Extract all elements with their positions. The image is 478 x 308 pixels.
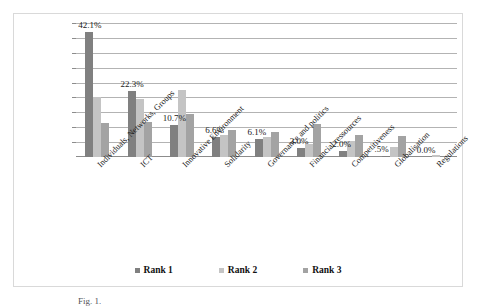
figure-caption: Fig. 1.: [78, 296, 101, 307]
bar-rank-2: [263, 137, 271, 157]
data-label: 6.1%: [248, 127, 267, 137]
data-label: 22.3%: [121, 79, 144, 89]
legend-swatch-icon: [219, 268, 224, 273]
data-label: 10.7%: [163, 113, 186, 123]
legend-item-rank-2[interactable]: Rank 2: [219, 265, 257, 275]
legend-label: Rank 1: [144, 265, 173, 275]
legend-label: Rank 2: [228, 265, 257, 275]
bar-rank-1: [339, 151, 347, 157]
bar-group: [170, 23, 194, 157]
legend-item-rank-1[interactable]: Rank 1: [135, 265, 173, 275]
legend-item-rank-3[interactable]: Rank 3: [303, 265, 341, 275]
bar-rank-1: [255, 139, 263, 157]
bar-group: [255, 23, 279, 157]
category-labels: Individuals, Networks, GroupsICTInnovati…: [76, 162, 457, 258]
chart-legend: Rank 1Rank 2Rank 3: [14, 265, 462, 275]
legend-swatch-icon: [135, 268, 140, 273]
bar-rank-2: [390, 147, 398, 157]
legend-swatch-icon: [303, 268, 308, 273]
bar-rank-2: [220, 135, 228, 157]
chart-frame: 42.1%22.3%10.7%6.6%6.1%3.0%2.0%.5%0.0% I…: [13, 13, 463, 287]
bar-rank-1: [297, 148, 305, 157]
bar-rank-2: [178, 90, 186, 157]
bar-rank-1: [382, 156, 390, 157]
bar-rank-1: [170, 125, 178, 157]
legend-label: Rank 3: [312, 265, 341, 275]
bar-rank-1: [85, 32, 93, 157]
bar-rank-2: [93, 97, 101, 157]
bar-group: [85, 23, 109, 157]
data-label: 42.1%: [78, 20, 101, 30]
